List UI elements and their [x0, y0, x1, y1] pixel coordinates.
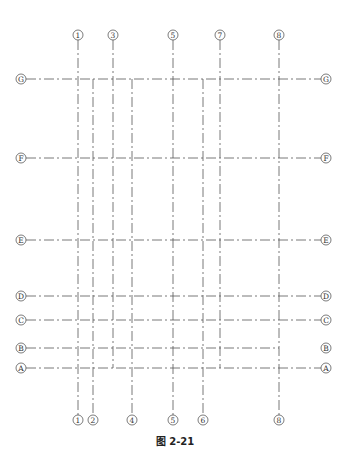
axis-bubble-text: 1: [76, 416, 81, 425]
axis-bubble-top-5: 5: [168, 30, 178, 40]
axis-bubble-text: 8: [277, 416, 282, 425]
axis-bubble-text: 5: [171, 31, 176, 40]
axis-bubble-text: E: [18, 236, 23, 245]
axis-bubble-text: B: [323, 344, 329, 353]
axis-bubble-top-7: 7: [215, 30, 225, 40]
axis-bubble-left-C: C: [16, 315, 26, 325]
axis-bubble-text: C: [18, 316, 24, 325]
axis-bubble-text: 4: [130, 416, 135, 425]
axis-bubble-text: 1: [76, 31, 81, 40]
axis-bubble-right-A: A: [321, 363, 331, 373]
axis-bubble-text: C: [323, 316, 329, 325]
axis-bubble-left-F: F: [16, 153, 26, 163]
axis-bubble-left-E: E: [16, 235, 26, 245]
figure-caption: 图 2-21: [0, 433, 350, 448]
axis-bubble-text: 7: [218, 31, 223, 40]
axis-bubble-right-B: B: [321, 343, 331, 353]
axis-bubble-top-3: 3: [108, 30, 118, 40]
axis-grid-diagram: 11234556788GGFFEEDDCCBBAA: [0, 0, 350, 469]
axis-bubble-text: D: [18, 292, 24, 301]
axis-labels: 11234556788GGFFEEDDCCBBAA: [16, 30, 331, 425]
axis-bubble-text: A: [17, 364, 24, 373]
axis-bubble-text: F: [323, 154, 328, 163]
axis-bubble-text: B: [18, 344, 24, 353]
axis-bubble-bottom-4: 4: [127, 415, 137, 425]
horizontal-axis-lines: [26, 79, 321, 368]
axis-bubble-left-D: D: [16, 291, 26, 301]
axis-bubble-right-C: C: [321, 315, 331, 325]
axis-bubble-left-B: B: [16, 343, 26, 353]
axis-bubble-text: 3: [111, 31, 116, 40]
axis-bubble-top-1: 1: [73, 30, 83, 40]
axis-bubble-text: E: [323, 236, 328, 245]
axis-bubble-text: 2: [91, 416, 96, 425]
axis-bubble-text: 5: [171, 416, 176, 425]
axis-bubble-text: 6: [201, 416, 206, 425]
axis-bubble-bottom-2: 2: [88, 415, 98, 425]
axis-bubble-right-F: F: [321, 153, 331, 163]
axis-bubble-bottom-1: 1: [73, 415, 83, 425]
axis-bubble-text: G: [18, 75, 24, 84]
axis-bubble-bottom-8: 8: [274, 415, 284, 425]
vertical-axis-lines: [78, 40, 279, 415]
axis-bubble-left-G: G: [16, 74, 26, 84]
axis-bubble-right-G: G: [321, 74, 331, 84]
axis-bubble-text: A: [322, 364, 329, 373]
axis-bubble-text: D: [323, 292, 329, 301]
axis-bubble-bottom-6: 6: [198, 415, 208, 425]
axis-bubble-right-D: D: [321, 291, 331, 301]
axis-bubble-right-E: E: [321, 235, 331, 245]
axis-bubble-text: 8: [277, 31, 282, 40]
axis-bubble-top-8: 8: [274, 30, 284, 40]
axis-bubble-left-A: A: [16, 363, 26, 373]
axis-bubble-text: G: [323, 75, 329, 84]
axis-bubble-bottom-5: 5: [168, 415, 178, 425]
axis-bubble-text: F: [18, 154, 23, 163]
